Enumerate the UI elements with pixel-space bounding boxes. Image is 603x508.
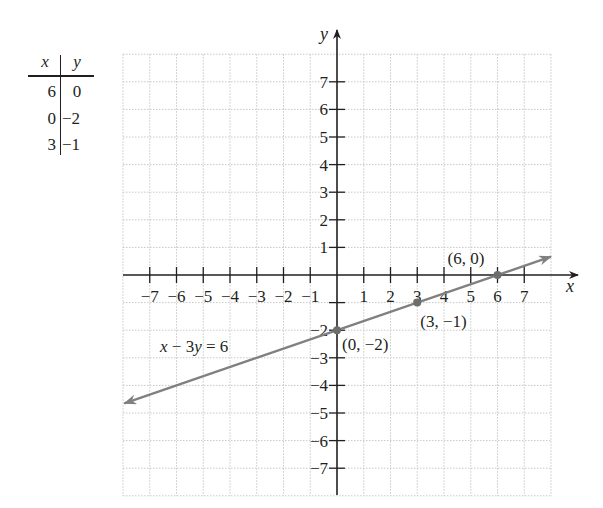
point-label: (3, −1) xyxy=(420,312,466,331)
x-tick-label: −1 xyxy=(301,287,319,306)
y-tick-label: 7 xyxy=(320,73,329,92)
y-tick-label: 5 xyxy=(320,128,329,147)
y-tick-label: −6 xyxy=(310,432,328,451)
y-tick-label: −7 xyxy=(310,459,329,478)
x-axis-label: x xyxy=(565,276,574,296)
x-tick-label: 4 xyxy=(440,287,449,306)
x-tick-label: −6 xyxy=(167,287,185,306)
x-tick-label: −2 xyxy=(274,287,292,306)
data-point xyxy=(413,299,421,307)
coordinate-plane-graph: xy−7−6−5−4−3−2−112345677654321−2−3−4−5−6… xyxy=(0,0,603,508)
x-tick-label: −7 xyxy=(141,287,160,306)
y-tick-label: 4 xyxy=(320,156,329,175)
x-tick-label: 2 xyxy=(386,287,395,306)
x-tick-label: 5 xyxy=(467,287,476,306)
data-point xyxy=(494,271,502,279)
y-tick-label: 1 xyxy=(320,238,329,257)
point-label: (6, 0) xyxy=(448,249,485,268)
y-tick-label: −4 xyxy=(310,376,329,395)
y-tick-label: −5 xyxy=(310,404,328,423)
y-axis-label: y xyxy=(318,24,328,44)
x-tick-label: −5 xyxy=(194,287,212,306)
y-tick-label: −3 xyxy=(310,349,328,368)
x-tick-label: −3 xyxy=(248,287,266,306)
point-label: (0, −2) xyxy=(342,335,388,354)
y-tick-label: 6 xyxy=(320,100,329,119)
y-tick-label: 2 xyxy=(320,211,329,230)
y-tick-label: 3 xyxy=(320,183,329,202)
x-tick-label: 1 xyxy=(360,287,369,306)
equation-label: x − 3y = 6 xyxy=(159,337,228,356)
x-tick-label: −4 xyxy=(221,287,240,306)
x-tick-label: 7 xyxy=(520,287,529,306)
data-point xyxy=(333,326,341,334)
x-tick-label: 6 xyxy=(493,287,502,306)
